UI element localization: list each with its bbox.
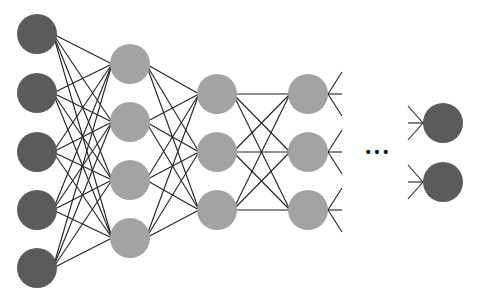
connection-edges bbox=[53, 34, 290, 268]
hidden-layer-1-neuron bbox=[110, 160, 150, 200]
edge bbox=[53, 64, 112, 93]
edge bbox=[408, 123, 423, 140]
ellipsis-text: • • • bbox=[366, 144, 389, 160]
edge bbox=[328, 152, 342, 174]
edge bbox=[53, 34, 112, 64]
edge bbox=[408, 165, 423, 182]
hidden-layer-3-neuron bbox=[288, 190, 328, 230]
input-layer-neuron bbox=[17, 14, 57, 54]
hidden-layer-3-neuron bbox=[288, 132, 328, 172]
edge bbox=[146, 64, 199, 94]
output-layer-neuron bbox=[423, 162, 463, 202]
input-layer-neuron bbox=[17, 190, 57, 230]
edge bbox=[328, 188, 342, 210]
edge bbox=[53, 238, 112, 268]
edge bbox=[408, 182, 423, 199]
edge bbox=[328, 72, 342, 94]
edge bbox=[146, 94, 199, 238]
edge bbox=[328, 94, 342, 116]
edge bbox=[328, 210, 342, 232]
hidden-layer-2-neuron bbox=[197, 74, 237, 114]
edge bbox=[53, 64, 112, 210]
hidden-layer-3-neuron bbox=[288, 74, 328, 114]
hidden-layer-2-neuron bbox=[197, 132, 237, 172]
hidden-layer-1-neuron bbox=[110, 44, 150, 84]
input-layer-neuron bbox=[17, 132, 57, 172]
input-layer-neuron bbox=[17, 248, 57, 288]
input-layer-neuron bbox=[17, 73, 57, 113]
hidden-layer-2-neuron bbox=[197, 190, 237, 230]
hidden-layer-1-neuron bbox=[110, 218, 150, 258]
hidden-layer-1-neuron bbox=[110, 102, 150, 142]
output-layer-neuron bbox=[423, 103, 463, 143]
neurons bbox=[17, 14, 463, 288]
edge bbox=[53, 122, 112, 268]
edge bbox=[328, 130, 342, 152]
edge bbox=[146, 210, 199, 238]
edge bbox=[408, 106, 423, 123]
edge bbox=[146, 94, 199, 122]
neural-network-diagram: • • • bbox=[0, 0, 479, 299]
edge bbox=[53, 180, 112, 268]
